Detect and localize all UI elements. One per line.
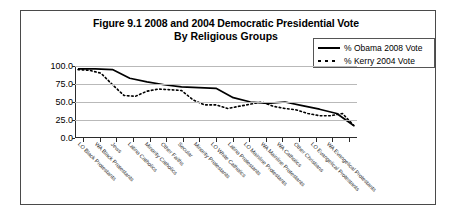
x-tick-label: Jews bbox=[110, 141, 123, 154]
chart-canvas: Figure 9.1 2008 and 2004 Democratic Pres… bbox=[21, 11, 437, 206]
legend-entry-obama: % Obama 2008 Vote bbox=[317, 41, 431, 54]
dashed-line-icon bbox=[317, 56, 341, 66]
y-tick-mark bbox=[72, 120, 75, 121]
legend-label-obama: % Obama 2008 Vote bbox=[344, 43, 422, 53]
gridline bbox=[75, 84, 357, 85]
plot-area bbox=[75, 66, 357, 138]
figure-frame: Figure 9.1 2008 and 2004 Democratic Pres… bbox=[20, 10, 436, 205]
series-line-obama-2008 bbox=[78, 69, 354, 126]
gridline bbox=[75, 66, 357, 67]
y-tick-mark bbox=[72, 84, 75, 85]
chart-title-line-1: Figure 9.1 2008 and 2004 Democratic Pres… bbox=[61, 17, 391, 30]
chart-legend: % Obama 2008 Vote % Kerry 2004 Vote bbox=[313, 38, 435, 68]
gridline bbox=[75, 102, 357, 103]
solid-line-icon bbox=[317, 43, 341, 53]
y-tick-label: 75.0 bbox=[55, 79, 73, 89]
gridline bbox=[75, 120, 357, 121]
x-axis-tick-labels: LO Black ProtestantsWA Black Protestants… bbox=[75, 139, 375, 209]
y-tick-label: 25.0 bbox=[55, 115, 73, 125]
x-tick-label: Other Christians bbox=[293, 141, 325, 173]
x-tick-label: Latino Catholics bbox=[127, 141, 159, 173]
y-tick-label: 50.0 bbox=[55, 97, 73, 107]
series-line-kerry-2004 bbox=[78, 70, 354, 126]
y-tick-mark bbox=[72, 66, 75, 67]
y-tick-mark bbox=[72, 102, 75, 103]
legend-label-kerry: % Kerry 2004 Vote bbox=[344, 56, 415, 66]
y-tick-label: 100.0 bbox=[50, 61, 73, 71]
